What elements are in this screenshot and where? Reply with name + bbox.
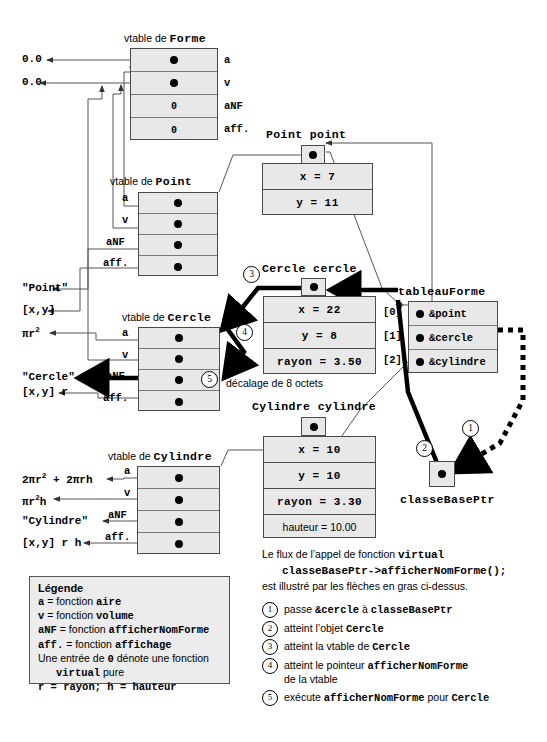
- vtable-forme-label-aff: aff.: [224, 123, 249, 135]
- object-cylindre[interactable]: x = 10 y = 10 rayon = 3.30 hauteur = 10.…: [263, 436, 376, 538]
- legend-box: Légende a = fonction aire v = fonction v…: [29, 576, 230, 684]
- return-value-cylindre-aire: 2πr2 + 2πrh: [22, 472, 93, 486]
- formula-base: πr: [22, 328, 35, 340]
- object-cercle[interactable]: x = 22 y = 8 rayon = 3.50: [263, 296, 376, 374]
- vtable-point[interactable]: [138, 192, 218, 276]
- vtable-cylindre-slot-aff[interactable]: [138, 533, 219, 555]
- legend-code: aff.: [38, 639, 63, 651]
- vtable-cercle-label-a: a: [122, 327, 128, 339]
- return-value-cylindre-volume: πr2h: [22, 494, 46, 508]
- vtable-cercle-slot-aff[interactable]: [139, 391, 219, 412]
- array-row[interactable]: &cylindre: [409, 350, 497, 374]
- array-row[interactable]: &cercle: [409, 326, 497, 350]
- steps-list: 1passe &cercle à classeBasePtr 2atteint …: [262, 603, 544, 710]
- vtable-cercle-label-aff: aff.: [103, 392, 128, 404]
- pure-virtual-zero: 0: [171, 101, 177, 112]
- array-value: &point: [429, 308, 467, 320]
- object-field: y = 8: [264, 323, 375, 349]
- step-marker-5: 5: [201, 371, 218, 388]
- step-code: &cercle: [315, 604, 359, 616]
- step-number: 4: [262, 658, 278, 674]
- vtable-forme-slot-aff[interactable]: 0: [131, 118, 217, 141]
- vtable-cylindre[interactable]: [137, 466, 220, 554]
- vtable-forme-slot-v[interactable]: [131, 72, 217, 95]
- step-marker-3: 3: [243, 266, 260, 283]
- vtable-caption-prefix: vtable de: [124, 32, 170, 44]
- function-pointer-dot: [175, 474, 183, 482]
- legend-note: Une entrée de 0 dénote une fonction: [38, 652, 221, 666]
- function-pointer-dot: [175, 496, 183, 504]
- function-pointer-dot: [175, 518, 183, 526]
- vtable-point-slot-a[interactable]: [139, 193, 217, 214]
- vtable-forme-slot-a[interactable]: [131, 49, 217, 72]
- legend-title: Légende: [38, 582, 221, 594]
- array-tableauforme[interactable]: &point &cercle &cylindre: [408, 301, 498, 373]
- return-value-point-aff: [x,y]: [22, 304, 55, 316]
- legend-mid: = fonction: [44, 595, 96, 607]
- array-row[interactable]: &point: [409, 302, 497, 326]
- legend-code2: aire: [96, 596, 121, 608]
- legend-note-pre: Une entrée de: [38, 652, 107, 664]
- vtable-point-slot-v[interactable]: [139, 214, 217, 235]
- legend-mid: = fonction: [57, 623, 109, 635]
- vtable-cylindre-label-v: v: [124, 487, 130, 499]
- object-field: x = 22: [264, 297, 375, 323]
- vtable-caption-class: Forme: [170, 32, 207, 45]
- vtable-cylindre-slot-v[interactable]: [138, 489, 219, 511]
- function-pointer-dot: [174, 263, 182, 271]
- vtable-cercle[interactable]: [138, 327, 220, 411]
- function-pointer-dot: [170, 79, 178, 87]
- classe-base-ptr-box[interactable]: [429, 461, 455, 487]
- vtable-cercle-slot-v[interactable]: [139, 349, 219, 370]
- function-pointer-dot: [175, 355, 183, 363]
- step-code: Cercle: [372, 641, 410, 653]
- object-field: y = 11: [263, 190, 372, 216]
- step-2: 2atteint l’objet Cercle: [262, 622, 544, 635]
- vtable-caption-class: Cercle: [168, 311, 212, 324]
- legend-code: aNF: [38, 624, 57, 636]
- object-point[interactable]: x = 7 y = 11: [262, 163, 373, 215]
- legend-row-a: a = fonction aire: [38, 595, 221, 609]
- vtable-cylindre-caption: vtable de Cylindre: [108, 450, 212, 463]
- flow-line2-code: classeBasePtr->afficherNomForme();: [282, 565, 506, 577]
- vtable-caption-prefix: vtable de: [108, 450, 154, 462]
- step-5: 5exécute afficherNomForme pour Cercle: [262, 691, 544, 704]
- object-cercle-vptr[interactable]: [301, 278, 326, 296]
- flow-line1-pre: Le flux de l’appel de fonction: [262, 548, 398, 560]
- step-marker-1: 1: [462, 420, 479, 437]
- step-code: Cercle: [346, 623, 384, 635]
- step-pre: atteint le pointeur: [284, 659, 367, 671]
- vtable-cylindre-label-anf: aNF: [108, 509, 127, 521]
- vtable-cylindre-slot-anf[interactable]: [138, 511, 219, 533]
- array-index-2: [2]: [383, 354, 402, 366]
- vtable-forme-slot-anf[interactable]: 0: [131, 95, 217, 118]
- object-field: y = 10: [264, 463, 375, 489]
- vtable-point-slot-aff[interactable]: [139, 256, 217, 277]
- vptr-dot: [310, 283, 318, 291]
- step-marker-2: 2: [416, 440, 433, 457]
- object-point-caption: Point point: [266, 128, 346, 141]
- vtable-caption-class: Point: [156, 175, 193, 188]
- vtable-cylindre-slot-a[interactable]: [138, 467, 219, 489]
- legend-note-indent: virtual pure: [38, 666, 221, 680]
- object-point-vptr[interactable]: [301, 145, 325, 164]
- array-value: &cylindre: [429, 356, 486, 368]
- vtable-forme[interactable]: 0 0: [130, 48, 218, 140]
- return-value-cylindre-aff: [x,y] r h: [22, 537, 81, 549]
- object-field: hauteur = 10.00: [264, 515, 375, 539]
- function-pointer-dot: [175, 376, 183, 384]
- vtable-forme-label-anf: aNF: [224, 100, 243, 112]
- legend-note-code: virtual: [56, 667, 100, 679]
- step-4: 4atteint le pointeur afficherNomFormede …: [262, 659, 544, 686]
- flow-description: Le flux de l’appel de fonction virtual c…: [262, 547, 547, 594]
- step-pre: exécute: [284, 691, 324, 703]
- step-3: 3atteint la vtable de Cercle: [262, 640, 544, 653]
- vtable-forme-caption: vtable de Forme: [124, 32, 206, 45]
- formula-rest: h: [40, 496, 47, 508]
- return-value-cercle-aff: [x,y] r: [22, 386, 68, 398]
- object-cylindre-vptr[interactable]: [301, 417, 326, 436]
- vtable-point-slot-anf[interactable]: [139, 235, 217, 256]
- step-mid: pour: [425, 691, 452, 703]
- legend-note-post: dénote une fonction: [114, 652, 209, 664]
- vtable-cercle-slot-a[interactable]: [139, 328, 219, 349]
